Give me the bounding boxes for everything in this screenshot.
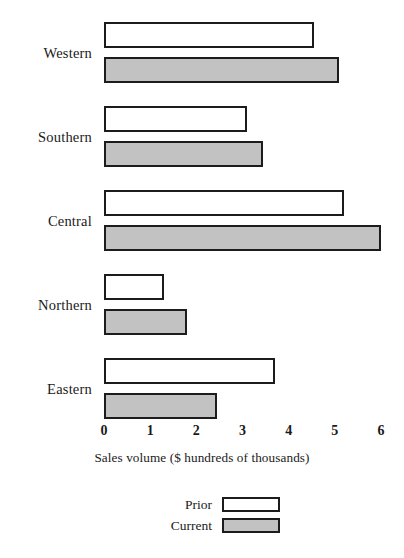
x-tick-6: 6 bbox=[369, 424, 393, 438]
legend-label-current: Current bbox=[126, 518, 212, 533]
bar-group: Central bbox=[0, 168, 404, 252]
bar-eastern-current bbox=[104, 393, 217, 419]
plot-area: WesternSouthernCentralNorthernEastern bbox=[0, 0, 404, 424]
x-tick-1: 1 bbox=[138, 424, 162, 438]
x-tick-4: 4 bbox=[277, 424, 301, 438]
category-label-northern: Northern bbox=[0, 298, 92, 313]
category-label-southern: Southern bbox=[0, 130, 92, 145]
bar-group: Southern bbox=[0, 84, 404, 168]
bar-central-prior bbox=[104, 190, 344, 216]
legend-item-current: Current bbox=[0, 517, 404, 538]
x-axis-title: Sales volume ($ hundreds of thousands) bbox=[0, 450, 404, 466]
bar-eastern-prior bbox=[104, 358, 275, 384]
bar-group: Western bbox=[0, 0, 404, 84]
bar-western-prior bbox=[104, 22, 314, 48]
bar-northern-current bbox=[104, 309, 187, 335]
bar-northern-prior bbox=[104, 274, 164, 300]
bar-chart: WesternSouthernCentralNorthernEastern 01… bbox=[0, 0, 404, 558]
bar-group: Northern bbox=[0, 252, 404, 336]
legend-swatch-white-swatch bbox=[222, 497, 280, 512]
category-label-western: Western bbox=[0, 46, 92, 61]
legend: PriorCurrent bbox=[0, 496, 404, 538]
bar-southern-prior bbox=[104, 106, 247, 132]
legend-item-prior: Prior bbox=[0, 496, 404, 517]
category-label-central: Central bbox=[0, 214, 92, 229]
bar-southern-current bbox=[104, 141, 263, 167]
bar-western-current bbox=[104, 57, 339, 83]
x-tick-0: 0 bbox=[92, 424, 116, 438]
x-tick-3: 3 bbox=[231, 424, 255, 438]
category-label-eastern: Eastern bbox=[0, 382, 92, 397]
legend-label-prior: Prior bbox=[126, 497, 212, 512]
bar-central-current bbox=[104, 225, 381, 251]
x-tick-5: 5 bbox=[323, 424, 347, 438]
x-tick-2: 2 bbox=[184, 424, 208, 438]
legend-swatch-gray-swatch bbox=[222, 518, 280, 533]
bar-group: Eastern bbox=[0, 336, 404, 420]
